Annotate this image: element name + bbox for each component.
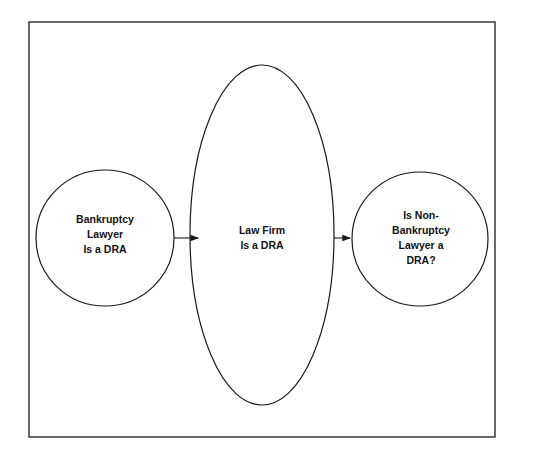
node-middle-label: Law Firm Is a DRA [239, 223, 285, 253]
label-line: Is Non- [392, 208, 450, 223]
label-line: Is a DRA [76, 242, 134, 257]
label-line: Lawyer a [392, 238, 450, 253]
label-line: Bankruptcy [76, 212, 134, 227]
label-line: DRA? [392, 253, 450, 268]
node-left-label: Bankruptcy Lawyer Is a DRA [76, 212, 134, 257]
label-line: Bankruptcy [392, 223, 450, 238]
label-line: Lawyer [76, 227, 134, 242]
label-line: Is a DRA [239, 238, 285, 253]
node-right-label: Is Non- Bankruptcy Lawyer a DRA? [392, 208, 450, 268]
label-line: Law Firm [239, 223, 285, 238]
